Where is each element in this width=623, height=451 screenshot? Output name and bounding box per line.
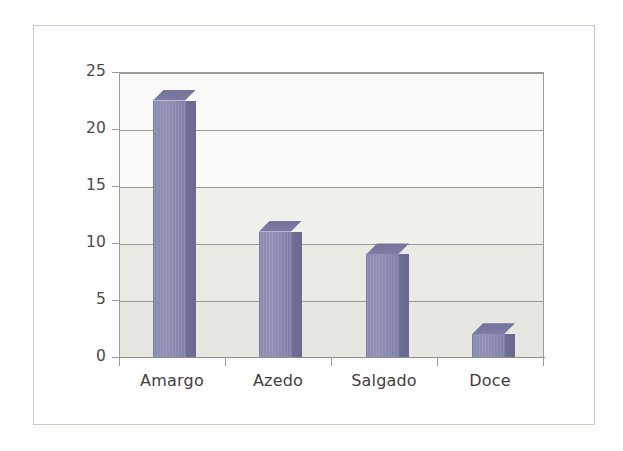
y-tick-mark-15 [112,186,120,187]
x-tick-label-azedo: Azedo [225,371,331,390]
bar-side-face [504,334,515,357]
x-tick-mark-3 [437,357,438,366]
bar-azedo [259,221,302,359]
x-tick-mark-2 [331,357,332,366]
y-tick-label-0: 0 [46,349,106,365]
bar-chart: 25 20 15 10 5 0 Amargo Azedo Salgado Doc… [34,26,596,426]
x-tick-mark-4 [543,357,544,366]
y-tick-mark-25 [112,72,120,73]
bar-front-face [259,232,292,357]
y-tick-label-15: 15 [46,178,106,194]
bar-front-face [472,334,505,357]
y-tick-label-20: 20 [46,121,106,137]
y-axis-line [119,72,120,357]
x-tick-label-amargo: Amargo [119,371,225,390]
y-tick-label-5: 5 [46,292,106,308]
bar-doce [472,323,515,359]
bar-top-face [259,221,302,232]
bar-top-face-fill [366,243,409,254]
bar-top-face-fill [259,221,302,232]
y-tick-label-25: 25 [46,64,106,80]
bar-front-face [153,101,186,358]
gridline-25 [119,73,543,74]
x-tick-label-doce: Doce [437,371,543,390]
bar-top-face-fill [472,323,515,334]
y-tick-mark-5 [112,300,120,301]
bar-top-face [366,243,409,254]
chart-page: 25 20 15 10 5 0 Amargo Azedo Salgado Doc… [0,0,623,451]
y-tick-mark-10 [112,243,120,244]
x-tick-label-salgado: Salgado [331,371,437,390]
bar-side-face [398,254,409,357]
bar-side-face [185,101,196,358]
bar-top-face-fill [153,90,196,101]
x-tick-mark-1 [225,357,226,366]
y-axis-tick-labels: 25 20 15 10 5 0 [42,26,106,426]
x-tick-mark-0 [119,357,120,366]
y-tick-label-10: 10 [46,235,106,251]
y-tick-mark-20 [112,129,120,130]
figure-frame: 25 20 15 10 5 0 Amargo Azedo Salgado Doc… [33,25,595,425]
bar-amargo [153,90,196,360]
bar-salgado [366,243,409,359]
bar-side-face [291,232,302,357]
bar-top-face [472,323,515,334]
bar-top-face [153,90,196,101]
bar-front-face [366,254,399,357]
